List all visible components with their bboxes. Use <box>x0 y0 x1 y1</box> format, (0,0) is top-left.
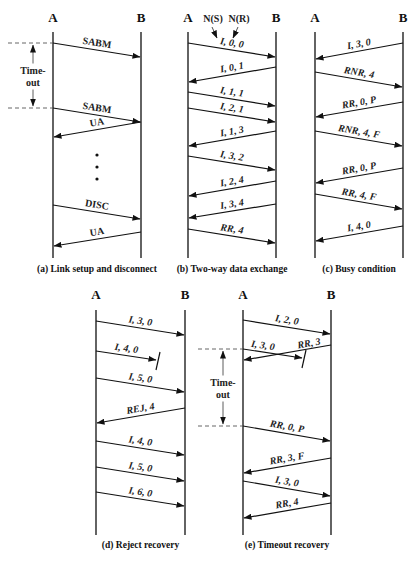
node-b-label: B <box>399 10 408 25</box>
frame-label: RR, 0, P <box>340 94 378 111</box>
frame-arrow: I, 3, 2 <box>188 148 275 170</box>
frame-arrow: I, 6, 0 <box>96 484 184 506</box>
panel-caption: (a) Link setup and disconnect <box>37 264 158 275</box>
frame-label: I, 5, 0 <box>127 459 153 474</box>
node-b-label: B <box>137 10 146 25</box>
frame-arrow: I, 5, 0 <box>96 370 184 392</box>
panel-b: AB(b) Two-way data exchangeN(S)N(R)I, 0,… <box>177 10 288 275</box>
frame-arrow: I, 2, 0 <box>243 312 330 334</box>
panel-caption: (e) Timeout recovery <box>245 540 330 551</box>
timeout-label: Time- <box>210 377 235 388</box>
frame-label: I, 3, 0 <box>127 313 153 328</box>
frame-arrow: I, 3, 4 <box>189 196 276 218</box>
panel-caption: (d) Reject recovery <box>102 540 180 551</box>
ns-pointer-icon <box>212 27 217 38</box>
frame-label: I, 3, 2 <box>218 148 244 163</box>
frame-label: I, 4, 0 <box>113 341 139 356</box>
node-b-label: B <box>327 287 336 302</box>
frame-label: I, 4, 0 <box>345 219 371 234</box>
frame-arrow: I, 0, 1 <box>189 60 276 82</box>
frame-arrow: I, 4, 0 <box>96 341 160 370</box>
timeout-label: out <box>26 77 41 88</box>
frame-arrow: RR, 4 <box>188 221 275 243</box>
frame-label: RR, 0, P <box>268 418 306 435</box>
frame-arrow: REJ, 4 <box>97 400 185 423</box>
panel-caption: (c) Busy condition <box>322 264 396 275</box>
frame-arrow: RNR, 4 <box>315 64 402 87</box>
frame-arrow: RR, 4 <box>244 496 331 518</box>
frame-arrow: I, 3, 0 <box>96 313 184 335</box>
node-a-label: A <box>48 10 58 25</box>
timeout-label: out <box>216 389 231 400</box>
frame-label: RR, 4 <box>273 496 299 511</box>
frame-label: UA <box>89 225 106 238</box>
hdlc-operation-diagram: AB(a) Link setup and disconnectTime-outS… <box>0 0 417 561</box>
frame-label: I, 6, 0 <box>127 484 153 499</box>
ns-annotation: N(S) <box>203 13 222 25</box>
panel-d: AB(d) Reject recoveryI, 3, 0I, 4, 0I, 5,… <box>91 287 189 551</box>
frame-label: RR, 3, F <box>268 450 306 467</box>
frame-label: I, 3, 4 <box>218 196 244 211</box>
frame-label: I, 3, 0 <box>273 473 299 488</box>
frame-label: I, 1, 3 <box>218 124 244 139</box>
frame-label: RR, 3 <box>295 336 321 351</box>
frame-arrow: I, 3, 0 <box>316 36 403 59</box>
frame-label: RR, 0, P <box>340 160 378 177</box>
nr-annotation: N(R) <box>228 13 249 25</box>
frame-arrow: I, 4, 0 <box>96 433 184 455</box>
frame-arrow: UA <box>54 225 141 246</box>
frame-label: I, 2, 4 <box>218 174 244 189</box>
frame-arrow: RR, 4, F <box>315 185 402 209</box>
panel-a: AB(a) Link setup and disconnectTime-outS… <box>8 10 158 275</box>
timeout-label: Time- <box>20 65 45 76</box>
frame-label: DISC <box>84 197 109 212</box>
frame-arrow: I, 2, 4 <box>189 174 276 196</box>
lost-frame-bar-icon <box>302 350 306 368</box>
frame-arrow: I, 1, 3 <box>189 124 276 146</box>
panel-c: AB(c) Busy conditionI, 3, 0RNR, 4RR, 0, … <box>310 10 407 275</box>
frame-label: I, 0, 0 <box>218 35 244 50</box>
frame-label: I, 5, 0 <box>127 370 153 385</box>
frame-label: I, 0, 1 <box>218 60 244 75</box>
frame-label: I, 2, 0 <box>273 312 299 327</box>
ellipsis-dot <box>95 165 98 168</box>
frame-label: I, 1, 1 <box>218 84 244 99</box>
ellipsis-dot <box>95 177 98 180</box>
frame-arrow: RNR, 4, F <box>315 122 402 146</box>
panel-e: AB(e) Timeout recoveryTime-outI, 2, 0I, … <box>198 287 336 551</box>
ellipsis-dot <box>95 153 98 156</box>
panel-caption: (b) Two-way data exchange <box>177 264 288 275</box>
frame-arrow: RR, 0, P <box>316 94 403 117</box>
frame-arrow: UA <box>54 115 141 137</box>
node-a-label: A <box>238 287 248 302</box>
frame-arrow: DISC <box>53 197 140 219</box>
frame-arrow: I, 5, 0 <box>96 459 184 481</box>
frame-arrow: I, 0, 0 <box>188 35 275 57</box>
frame-arrow: RR, 0, P <box>316 160 403 183</box>
frame-arrow: I, 3, 0 <box>243 473 330 496</box>
node-a-label: A <box>91 287 101 302</box>
frame-label: RR, 4 <box>219 221 245 236</box>
frame-arrow: SABM <box>53 35 140 57</box>
lost-frame-bar-icon <box>156 352 160 370</box>
frame-label: RR, 4, F <box>340 185 378 202</box>
node-b-label: B <box>181 287 190 302</box>
node-a-label: A <box>310 10 320 25</box>
frame-label: UA <box>89 115 106 128</box>
frame-label: I, 2, 1 <box>218 100 244 115</box>
node-b-label: B <box>272 10 281 25</box>
frame-arrow: RR, 0, P <box>243 418 330 441</box>
frame-label: I, 4, 0 <box>127 433 153 448</box>
frame-label: RNR, 4, F <box>336 122 381 140</box>
frame-arrow: I, 4, 0 <box>316 219 403 241</box>
frame-arrow: RR, 3, F <box>244 450 331 473</box>
node-a-label: A <box>183 10 193 25</box>
